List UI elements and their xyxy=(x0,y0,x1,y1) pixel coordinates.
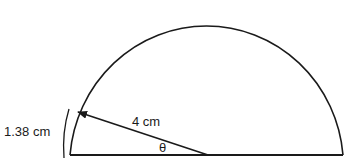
arc-length-label: 1.38 cm xyxy=(4,124,50,139)
semicircle-arc xyxy=(70,26,343,155)
angle-theta-label: θ xyxy=(159,140,166,155)
arc-length-bracket xyxy=(64,109,69,158)
diagram-canvas: 1.38 cm 4 cm θ xyxy=(0,0,355,167)
radius-label: 4 cm xyxy=(132,114,160,129)
